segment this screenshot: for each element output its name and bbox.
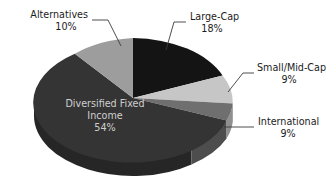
- label-international-value: 9%: [280, 128, 295, 139]
- label-large-cap-value: 18%: [201, 23, 222, 34]
- label-alternatives-value: 10%: [55, 21, 76, 32]
- label-small-mid-cap-name: Small/Mid-Cap: [257, 62, 326, 73]
- leader-line-small-mid-cap: [228, 73, 254, 92]
- pie-chart-container: Alternatives 10% Large-Cap 18% Small/Mid…: [0, 0, 332, 192]
- label-diversified-fixed-income-line2: Income: [87, 110, 122, 121]
- label-international-name: International: [258, 116, 319, 127]
- label-large-cap-name: Large-Cap: [190, 11, 239, 22]
- label-alternatives-name: Alternatives: [30, 9, 88, 20]
- pie-chart-svg: Alternatives 10% Large-Cap 18% Small/Mid…: [0, 0, 332, 192]
- label-small-mid-cap-value: 9%: [281, 74, 296, 85]
- label-diversified-fixed-income-value: 54%: [94, 122, 115, 133]
- label-diversified-fixed-income-line1: Diversified Fixed: [65, 98, 144, 109]
